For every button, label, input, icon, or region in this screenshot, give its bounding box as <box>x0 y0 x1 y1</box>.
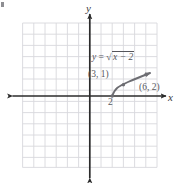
graph-figure: y x y = √x − 2 (3, 1) (6, 2) 2 <box>0 0 181 186</box>
point-marker-3-1 <box>122 83 125 86</box>
equation-equals-sign: = <box>99 52 104 62</box>
x-intercept-label: 2 <box>108 98 113 108</box>
point-label-3-1: (3, 1) <box>88 70 109 80</box>
equation-radicand: x − 2 <box>112 51 134 62</box>
coordinate-plane <box>0 0 181 186</box>
point-marker-6-2 <box>144 73 147 76</box>
equation-variable-y: y <box>92 52 96 62</box>
y-axis-label: y <box>86 3 91 14</box>
radical-sign: √ <box>106 52 111 62</box>
x-axis-label: x <box>168 92 173 103</box>
point-label-6-2: (6, 2) <box>139 83 160 93</box>
equation-label: y = √x − 2 <box>92 51 134 62</box>
